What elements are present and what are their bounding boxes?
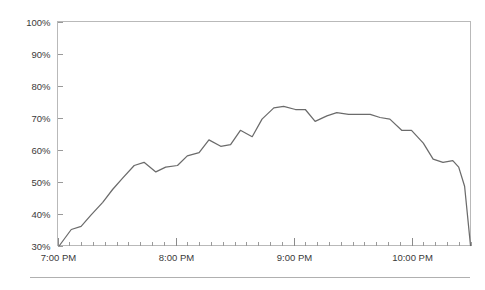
plot-frame <box>58 22 471 246</box>
series-line-percent <box>59 106 470 245</box>
x-tick-label: 8:00 PM <box>159 252 194 263</box>
y-tick-label: 90% <box>31 49 51 60</box>
x-tick-label: 10:00 PM <box>392 252 433 263</box>
line-chart-figure: 30%40%50%60%70%80%90%100% 7:00 PM8:00 PM… <box>0 0 485 290</box>
y-tick-label: 100% <box>26 17 51 28</box>
y-tick-label: 80% <box>31 81 51 92</box>
y-tick-label: 30% <box>31 241 51 252</box>
x-tick-label: 7:00 PM <box>41 252 76 263</box>
x-tick-label: 9:00 PM <box>277 252 312 263</box>
x-axis-label-group: 7:00 PM8:00 PM9:00 PM10:00 PM <box>41 252 433 263</box>
chart-svg: 30%40%50%60%70%80%90%100% 7:00 PM8:00 PM… <box>0 0 485 290</box>
y-tick-label: 70% <box>31 113 51 124</box>
y-tick-label: 40% <box>31 209 51 220</box>
chart-page: 30%40%50%60%70%80%90%100% 7:00 PM8:00 PM… <box>0 0 485 290</box>
y-axis-tick-group <box>58 23 63 247</box>
x-axis-minor-tick-group <box>59 242 472 246</box>
y-axis-label-group: 30%40%50%60%70%80%90%100% <box>26 17 51 252</box>
y-tick-label: 60% <box>31 145 51 156</box>
y-tick-label: 50% <box>31 177 51 188</box>
